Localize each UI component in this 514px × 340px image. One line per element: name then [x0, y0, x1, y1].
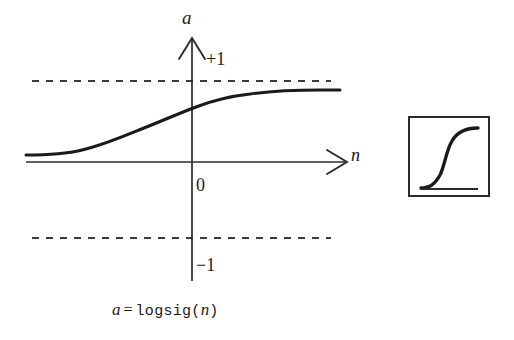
caption-formula: a=logsig(n) [112, 300, 218, 320]
formula-close-paren: ) [209, 303, 218, 320]
formula-function-name: logsig [136, 303, 192, 320]
logsig-icon-canvas [410, 118, 488, 195]
logsig-transfer-function-icon [408, 116, 490, 197]
origin-label: 0 [196, 176, 205, 194]
formula-open-paren: ( [191, 303, 200, 320]
lower-bound-label: −1 [196, 256, 215, 274]
logsig-curve [26, 90, 340, 155]
formula-output-var: a [112, 300, 121, 319]
horizontal-axis-label: n [351, 146, 360, 164]
upper-bound-label: +1 [206, 50, 225, 68]
formula-equals-sign: = [121, 301, 136, 318]
sigmoid-s-curve-icon [421, 128, 478, 188]
logsig-transfer-function-figure: a n +1 0 −1 a=logsig(n) [0, 0, 514, 340]
vertical-axis-label: a [182, 8, 192, 27]
formula-input-var: n [201, 300, 210, 319]
